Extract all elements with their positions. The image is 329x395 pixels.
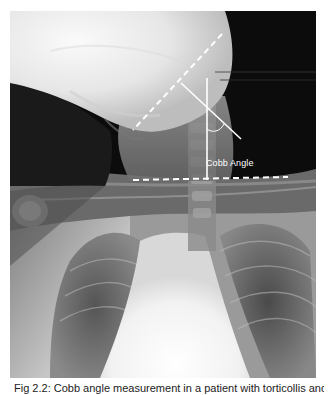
cobb-angle-label: Cobb Angle xyxy=(206,158,254,168)
xray-image: Cobb Angle xyxy=(10,11,316,378)
xray-illustration xyxy=(10,11,316,378)
figure-caption: Fig 2.2: Cobb angle measurement in a pat… xyxy=(14,381,324,395)
